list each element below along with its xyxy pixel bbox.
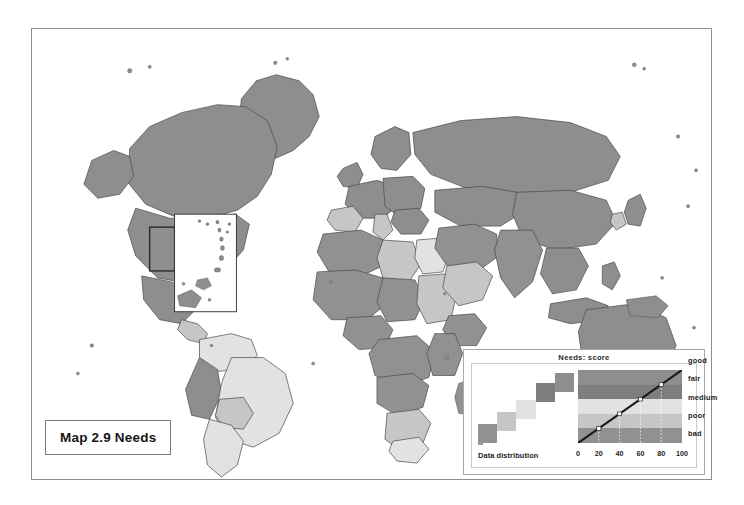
score-xtick-20: 20 bbox=[595, 449, 603, 458]
score-marker-40 bbox=[618, 412, 622, 416]
distribution-step-poor bbox=[497, 412, 516, 431]
score-marker-20 bbox=[597, 427, 601, 431]
score-xtick-40: 40 bbox=[616, 449, 624, 458]
score-line-svg bbox=[578, 370, 682, 443]
distribution-axis-tick bbox=[478, 442, 483, 445]
score-marker-80 bbox=[659, 383, 663, 387]
legend-title: Needs: score bbox=[464, 353, 704, 362]
score-identity-line bbox=[578, 370, 682, 443]
score-xtick-80: 80 bbox=[657, 449, 665, 458]
legend-class-label-bad: bad bbox=[688, 429, 702, 438]
legend-class-label-good: good bbox=[688, 356, 707, 365]
score-xtick-60: 60 bbox=[636, 449, 644, 458]
distribution-step-good bbox=[555, 373, 574, 392]
distribution-step-bad bbox=[478, 424, 497, 443]
country-morocco-algeria bbox=[317, 230, 387, 276]
legend-class-label-fair: fair bbox=[688, 374, 700, 383]
distribution-plot bbox=[478, 370, 574, 443]
score-marker-60 bbox=[638, 397, 642, 401]
legend-inner: Data distribution badpoormediumfairgood0… bbox=[471, 363, 697, 468]
score-xtick-0: 0 bbox=[576, 449, 580, 458]
score-plot-area bbox=[578, 370, 682, 443]
legend-class-label-medium: medium bbox=[688, 393, 718, 402]
score-xtick-100: 100 bbox=[676, 449, 688, 458]
inset-island-puerto-rico bbox=[214, 268, 220, 272]
map-frame: .c{stroke:#4a4a4a;stroke-width:.7;stroke… bbox=[31, 28, 712, 480]
country-east-africa bbox=[427, 334, 463, 376]
data-distribution-chart: Data distribution bbox=[478, 370, 574, 461]
distribution-step-fair bbox=[536, 383, 555, 402]
score-guide-lines bbox=[599, 385, 661, 443]
data-distribution-label: Data distribution bbox=[478, 451, 538, 460]
page-title: Map 2.9 Needs bbox=[60, 430, 156, 445]
distribution-step-medium bbox=[516, 400, 535, 419]
legend-class-label-poor: poor bbox=[688, 411, 705, 420]
legend-panel: Needs: score Data distribution badpoorme… bbox=[463, 349, 705, 475]
map-title-box: Map 2.9 Needs bbox=[45, 420, 171, 455]
score-chart: badpoormediumfairgood020406080100 bbox=[578, 370, 692, 461]
